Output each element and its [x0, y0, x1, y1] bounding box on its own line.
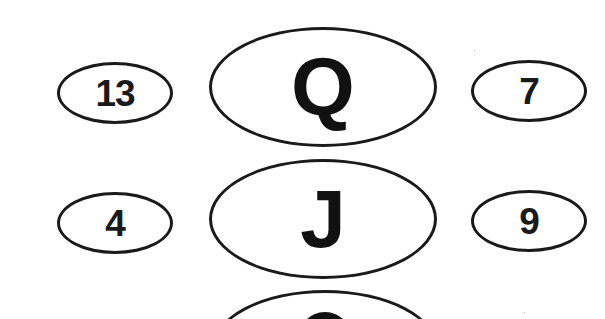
center-letter-row-3-partial — [297, 312, 353, 319]
left-number-row-1: 13 — [95, 75, 134, 112]
scan-speck — [474, 50, 475, 51]
left-number-oval-row-1: 13 — [57, 62, 173, 124]
center-letter-row-1: Q — [291, 46, 355, 128]
right-number-oval-row-1: 7 — [471, 60, 587, 122]
center-letter-row-2: J — [300, 178, 346, 260]
right-number-oval-row-2: 9 — [471, 190, 587, 252]
center-letter-oval-row-2: J — [209, 159, 437, 279]
right-number-row-1: 7 — [519, 73, 539, 110]
scan-speck — [524, 312, 525, 313]
center-letter-oval-row-3 — [211, 290, 439, 319]
right-number-row-2: 9 — [519, 203, 539, 240]
center-letter-oval-row-1: Q — [209, 27, 437, 147]
left-number-oval-row-2: 4 — [57, 192, 173, 254]
left-number-row-2: 4 — [105, 205, 125, 242]
